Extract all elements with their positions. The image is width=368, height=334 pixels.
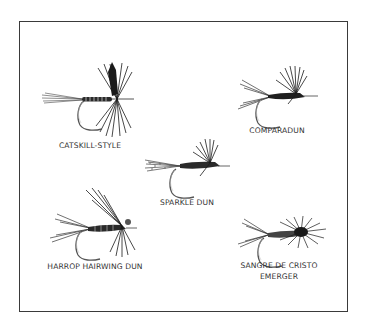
sparkle-dun-label: SPARKLE DUN: [160, 198, 214, 208]
sparkle-dun-fly-drawing: [145, 139, 230, 198]
comparadun-fly-drawing: [238, 66, 318, 128]
harrop-hairwing-dun-fly-drawing: [50, 188, 137, 260]
sangre-de-cristo-label-line2: EMERGER: [260, 272, 298, 282]
sangre-de-cristo-label-line1: SANGRE DE CRISTO: [240, 261, 317, 271]
harrop-hairwing-dun-label: HARROP HAIRWING DUN: [47, 262, 142, 272]
catskill-style-fly-drawing: [42, 62, 134, 137]
fly-illustrations: [0, 0, 368, 334]
comparadun-label: COMPARADUN: [249, 126, 304, 136]
sangre-de-cristo-emerger-fly-drawing: [238, 216, 326, 267]
catskill-style-label: CATSKILL-STYLE: [59, 141, 121, 151]
